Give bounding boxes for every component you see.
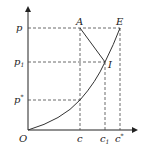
x-label-cstar: c*: [115, 132, 124, 144]
x-label-c: c: [77, 133, 83, 144]
y-label-pstar: p*: [14, 93, 23, 105]
y-label-p: p: [16, 22, 23, 33]
equilibrium-curve: [28, 28, 120, 130]
y-label-p1: p1: [14, 56, 24, 68]
point-label-e: E: [115, 16, 124, 27]
diagram: p p1 p* O c c1 c* A E I: [0, 0, 141, 150]
point-label-i: I: [107, 59, 113, 70]
point-label-a: A: [75, 16, 83, 27]
origin-label: O: [19, 133, 27, 144]
segment-a-i: [80, 28, 105, 62]
x-label-c1: c1: [100, 133, 109, 145]
